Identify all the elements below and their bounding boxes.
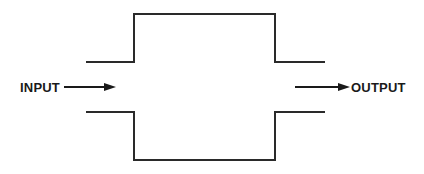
chamber-top-wall bbox=[86, 14, 325, 62]
chamber-bottom-wall bbox=[86, 112, 325, 160]
diagram-canvas: INPUT OUTPUT bbox=[0, 0, 424, 174]
output-label: OUTPUT bbox=[351, 81, 406, 94]
input-arrow-icon bbox=[64, 83, 116, 91]
input-label: INPUT bbox=[20, 81, 60, 94]
output-arrow-icon bbox=[295, 83, 350, 91]
